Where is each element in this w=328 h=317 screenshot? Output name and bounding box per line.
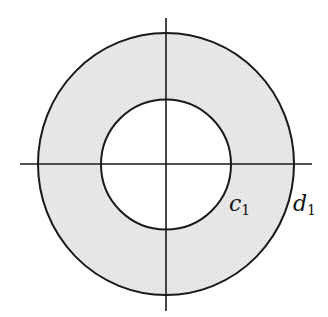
label-c1-letter: c [229,191,241,216]
label-d1-letter: d [293,191,307,216]
label-c1: c1 [229,193,250,217]
label-d1: d1 [293,193,316,217]
label-c1-subscript: 1 [241,202,250,218]
annulus-diagram [0,0,328,317]
label-d1-subscript: 1 [307,202,316,218]
